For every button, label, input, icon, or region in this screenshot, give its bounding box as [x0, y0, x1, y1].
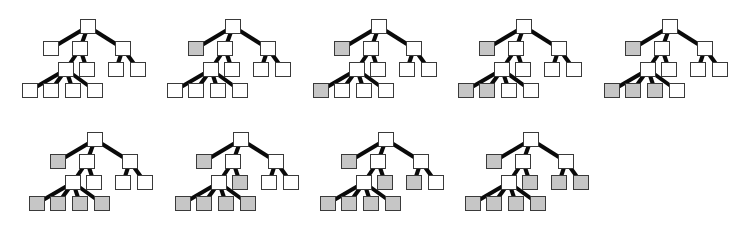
tree-node-rl2-filled [573, 175, 589, 190]
tree-node-m [515, 154, 531, 169]
tree-node-ml-filled [522, 175, 538, 190]
tree-node-b3-filled [508, 196, 524, 211]
tree-edges [0, 0, 745, 227]
tree-node-s [501, 175, 517, 190]
tree-node-b4-filled [530, 196, 546, 211]
tree-node-rl1-filled [551, 175, 567, 190]
tree-node-root [523, 132, 539, 147]
tree-node-r [558, 154, 574, 169]
tree-node-b1-filled [465, 196, 481, 211]
tree-sequence-figure [0, 0, 745, 227]
tree-node-l-filled [486, 154, 502, 169]
tree-node-b2-filled [486, 196, 502, 211]
